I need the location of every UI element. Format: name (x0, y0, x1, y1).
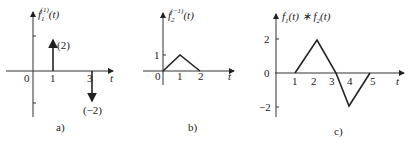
figure-canvas: f1(1)(t) (2) (−2) 0 1 3 t a) f2(−1)(t) 1… (0, 0, 412, 147)
x-axis-label: t (110, 72, 114, 84)
panel-caption: a) (56, 121, 65, 134)
x-tick-label: 3 (329, 75, 335, 87)
y-axis-label: f2(−1)(t) (168, 7, 194, 24)
y-tick-label: −2 (259, 101, 271, 113)
x-tick-label: 1 (50, 72, 56, 84)
y-tick-label: 1 (154, 49, 160, 61)
x-tick-label: 4 (347, 75, 353, 87)
y-tick-label: 2 (264, 33, 270, 45)
x-tick-label: 1 (292, 75, 298, 87)
panel-caption: b) (188, 121, 198, 134)
y-axis-label: f1(1)(t) (38, 6, 59, 23)
panel-c: f1(t) ∗ f2(t) 2 0 −2 1 2 3 4 5 t c) (259, 10, 404, 138)
origin-label: 0 (155, 70, 161, 82)
x-tick-label: 2 (311, 75, 317, 87)
x-tick-label: 1 (177, 70, 183, 82)
x-tick-label: 5 (370, 75, 376, 87)
impulse-label-pos: (2) (57, 39, 70, 52)
x-axis-label: t (228, 70, 232, 82)
impulse-label-neg: (−2) (83, 104, 102, 117)
y-tick-label: 0 (264, 67, 270, 79)
y-axis-label: f1(t) ∗ f2(t) (282, 10, 331, 25)
x-tick-label: 2 (198, 70, 204, 82)
x-axis-label: t (396, 75, 400, 87)
origin-label: 0 (24, 72, 30, 84)
x-tick-label: 3 (87, 72, 93, 84)
panel-b: f2(−1)(t) 1 0 1 2 t b) (143, 7, 234, 134)
triangle-curve (163, 55, 200, 71)
panel-a: f1(1)(t) (2) (−2) 0 1 3 t a) (6, 6, 114, 134)
panel-caption: c) (334, 125, 343, 138)
